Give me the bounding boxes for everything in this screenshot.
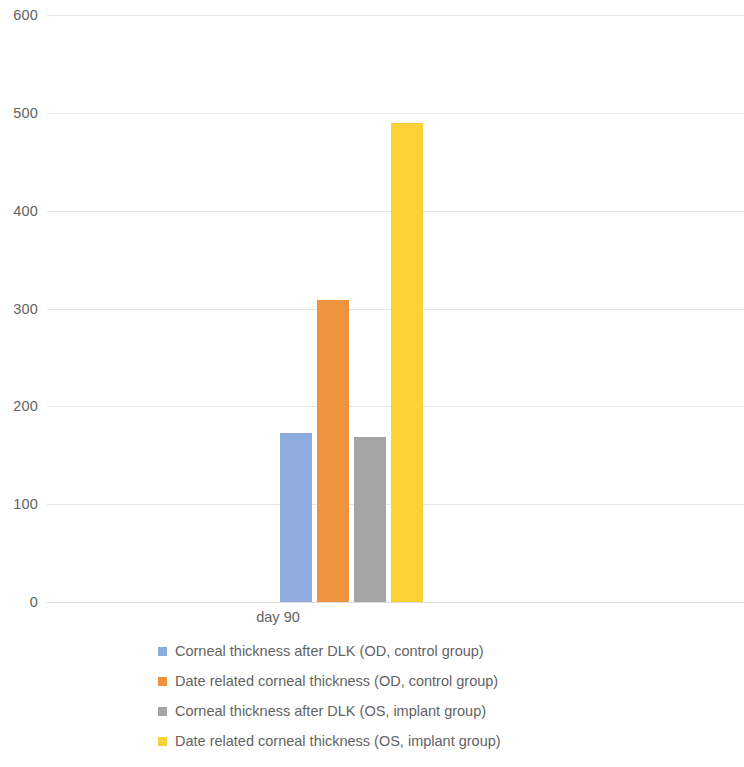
y-axis-tick-600: 600 <box>0 8 38 23</box>
bar-chart: 6005004003002001000 day 90 Corneal thick… <box>0 0 744 767</box>
y-axis-tick-100: 100 <box>0 497 38 512</box>
legend-item-inner: Corneal thickness after DLK (OD, control… <box>158 643 538 659</box>
y-axis-tick-300: 300 <box>0 302 38 317</box>
legend-item[interactable]: Date related corneal thickness (OS, impl… <box>0 726 744 756</box>
legend-swatch-icon <box>158 707 167 716</box>
bar-series-2 <box>317 300 349 602</box>
y-axis-tick-0: 0 <box>0 595 38 610</box>
legend-swatch-icon <box>158 677 167 686</box>
bar-series-4 <box>391 123 423 602</box>
x-axis-category-label: day 90 <box>0 609 744 625</box>
legend-item-label: Date related corneal thickness (OS, impl… <box>175 733 501 749</box>
bars-layer <box>47 15 744 602</box>
plot-area <box>47 15 744 602</box>
y-axis-tick-400: 400 <box>0 204 38 219</box>
legend-item-inner: Date related corneal thickness (OS, impl… <box>158 733 538 749</box>
y-axis-tick-200: 200 <box>0 399 38 414</box>
legend-swatch-icon <box>158 737 167 746</box>
legend-item[interactable]: Corneal thickness after DLK (OD, control… <box>0 636 744 666</box>
legend-item-inner: Date related corneal thickness (OD, cont… <box>158 673 538 689</box>
legend-item-inner: Corneal thickness after DLK (OS, implant… <box>158 703 538 719</box>
y-axis-tick-500: 500 <box>0 106 38 121</box>
legend-item-label: Corneal thickness after DLK (OD, control… <box>175 643 484 659</box>
legend-item[interactable]: Corneal thickness after DLK (OS, implant… <box>0 696 744 726</box>
legend-swatch-icon <box>158 647 167 656</box>
legend-item-label: Corneal thickness after DLK (OS, implant… <box>175 703 486 719</box>
bar-series-1 <box>280 433 312 602</box>
bar-series-3 <box>354 437 386 602</box>
legend: Corneal thickness after DLK (OD, control… <box>0 636 744 756</box>
legend-item[interactable]: Date related corneal thickness (OD, cont… <box>0 666 744 696</box>
category-label-text: day 90 <box>256 609 300 625</box>
gridline-0 <box>47 602 744 603</box>
legend-item-label: Date related corneal thickness (OD, cont… <box>175 673 498 689</box>
